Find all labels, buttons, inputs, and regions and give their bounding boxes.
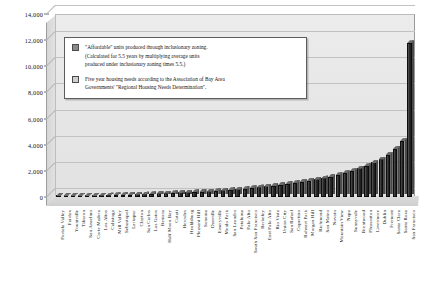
x-axis-tick-label: San Leandro (232, 210, 237, 237)
bar[interactable] (307, 181, 311, 197)
bar[interactable] (214, 191, 218, 197)
bar[interactable] (271, 186, 275, 198)
x-axis-tick-label: Los Altos (103, 210, 108, 230)
bar[interactable] (128, 195, 132, 197)
bar[interactable] (336, 175, 340, 197)
legend-swatch (72, 76, 79, 83)
bar[interactable] (171, 193, 175, 197)
bar[interactable] (121, 195, 125, 197)
bar[interactable] (321, 178, 325, 197)
bar-front-face (314, 179, 318, 197)
x-axis-tick-label: Dublin (382, 210, 387, 225)
bar[interactable] (64, 196, 68, 198)
bar-front-face (264, 186, 268, 197)
bar-front-face (214, 191, 218, 197)
bar[interactable] (293, 183, 297, 197)
bar[interactable] (164, 193, 168, 197)
bar[interactable] (92, 195, 96, 197)
x-axis-tick-label: San Mateo (325, 210, 330, 232)
bar[interactable] (192, 192, 196, 197)
bar-front-face (257, 187, 261, 197)
x-axis-tick-label: Yountville (74, 210, 79, 232)
y-axis-tick-label: 12,000 (25, 37, 43, 44)
bar[interactable] (221, 190, 225, 197)
bar[interactable] (99, 195, 103, 197)
x-axis-tick-label: Richmond (318, 210, 323, 232)
bar[interactable] (386, 155, 390, 197)
bar[interactable] (400, 141, 404, 197)
bar-front-face (235, 189, 239, 197)
bar[interactable] (85, 196, 89, 198)
bar[interactable] (350, 171, 354, 197)
x-axis-tick-label: Novato (332, 210, 337, 225)
x-axis-tick-label: Mountain View (339, 210, 344, 242)
bar-front-face (271, 186, 275, 198)
bar[interactable] (178, 192, 182, 197)
x-axis-tick-label: East Palo Alto (267, 210, 272, 240)
x-axis-tick-label: Half Moon Bay (167, 210, 172, 243)
bar-front-face (200, 192, 204, 197)
bar[interactable] (357, 168, 361, 197)
bar[interactable] (364, 166, 368, 197)
x-axis-tick-label: Palo Alto (246, 210, 251, 230)
bar-front-face (336, 175, 340, 197)
legend-label: Five year housing needs according to the… (85, 75, 225, 92)
x-axis-tick-label: Mill Valley (117, 210, 122, 234)
bar[interactable] (257, 187, 261, 197)
x-axis-tick-label: Calistoga (110, 210, 115, 230)
bar-front-face (243, 189, 247, 197)
bar-front-face (293, 183, 297, 197)
bar[interactable] (250, 188, 254, 197)
bar[interactable] (407, 43, 411, 197)
legend-swatch (72, 44, 79, 51)
bar[interactable] (71, 196, 75, 198)
y-axis-tick-label: 10,000 (25, 63, 43, 70)
x-axis-tick-label: Livermore (375, 210, 380, 232)
bar[interactable] (185, 192, 189, 197)
x-axis-tick-label: Fairfax (67, 210, 72, 225)
bar[interactable] (106, 195, 110, 197)
y-axis-tick-label: 4,000 (28, 141, 43, 148)
bar[interactable] (149, 194, 153, 197)
bar[interactable] (393, 149, 397, 197)
bar[interactable] (142, 194, 146, 197)
bar[interactable] (200, 192, 204, 197)
x-axis-tick-label: San Anselmo (88, 210, 93, 238)
bar-front-face (300, 182, 304, 197)
bar-front-face (185, 192, 189, 197)
bar[interactable] (278, 185, 282, 197)
x-axis-labels: Portola ValleyFairfaxYountvilleTiburonSa… (46, 210, 419, 294)
bar[interactable] (264, 186, 268, 197)
bar-front-face (321, 178, 325, 197)
bar[interactable] (114, 195, 118, 197)
x-axis-tick-label: Napa (346, 210, 351, 221)
x-axis-tick-label: Cotati (174, 210, 179, 223)
x-axis-tick-label: San Rafael (289, 210, 294, 233)
bar-front-face (393, 149, 397, 197)
bar[interactable] (56, 196, 60, 198)
legend-entry: "Affordable" units produced through incl… (71, 43, 300, 69)
bar[interactable] (343, 173, 347, 197)
bar[interactable] (314, 179, 318, 197)
x-axis-tick-label: Danville (210, 210, 215, 228)
bar-front-face (364, 166, 368, 197)
x-axis-tick-label: Tiburon (81, 210, 86, 227)
bar-front-face (407, 43, 411, 197)
bar[interactable] (78, 196, 82, 198)
x-axis-tick-label: Cupertino (296, 210, 301, 231)
bar[interactable] (135, 194, 139, 197)
bar[interactable] (379, 159, 383, 197)
bar[interactable] (243, 189, 247, 197)
bar-front-face (285, 184, 289, 197)
bar[interactable] (235, 189, 239, 197)
bar[interactable] (371, 162, 375, 197)
bar[interactable] (300, 182, 304, 197)
bar[interactable] (285, 184, 289, 197)
bar[interactable] (328, 177, 332, 197)
bar[interactable] (228, 190, 232, 197)
bar[interactable] (207, 191, 211, 197)
bar-front-face (328, 177, 332, 197)
bar[interactable] (157, 193, 161, 197)
y-axis-tick-label: 2,000 (28, 167, 43, 174)
y-axis-tick-label: 8,000 (28, 89, 43, 96)
